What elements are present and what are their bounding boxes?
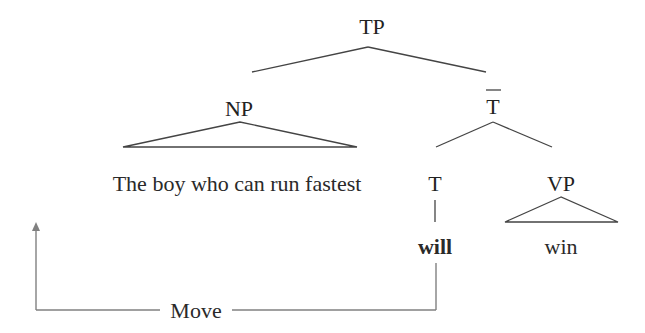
- arrow-up-icon: [32, 222, 40, 231]
- branch-tbar-t: [436, 122, 493, 147]
- node-tp: TP: [359, 14, 385, 39]
- branch-tp-tbar: [368, 47, 486, 72]
- node-tbar: T: [486, 90, 501, 119]
- branch-tbar-vp: [493, 122, 552, 147]
- node-vp: VP: [547, 171, 575, 196]
- move-label: Move: [170, 298, 221, 323]
- node-np: NP: [225, 96, 253, 121]
- np-triangle: [123, 122, 357, 147]
- t-word-will: will: [418, 234, 452, 259]
- vp-triangle: [505, 197, 618, 222]
- node-tp-label: TP: [359, 14, 385, 39]
- node-vp-label: VP: [547, 171, 575, 196]
- syntax-tree-diagram: TP NP The boy who can run fastest T T wi…: [0, 0, 645, 333]
- node-tbar-label: T: [486, 94, 500, 119]
- node-t: T: [428, 171, 442, 196]
- node-np-label: NP: [225, 96, 253, 121]
- branch-tp-np: [252, 47, 368, 72]
- movement-arrow: Move: [32, 222, 436, 323]
- np-content: The boy who can run fastest: [113, 171, 362, 196]
- vp-content: win: [545, 234, 578, 259]
- node-t-label: T: [428, 171, 442, 196]
